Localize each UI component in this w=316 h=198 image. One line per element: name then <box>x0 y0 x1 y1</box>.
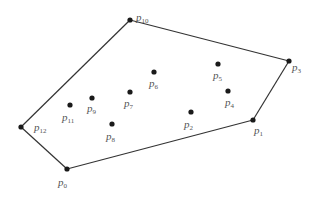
label-p12: p12 <box>33 121 47 135</box>
label-p9: p9 <box>86 102 97 116</box>
point-p3 <box>286 58 291 63</box>
hull-edge-p3-p10 <box>130 20 289 61</box>
point-labels: p0p1p2p3p4p5p6p7p8p9p10p11p12 <box>33 11 302 190</box>
hull-edge-p0-p1 <box>67 120 253 169</box>
point-p0 <box>64 166 69 171</box>
label-p4: p4 <box>224 96 235 110</box>
point-p7 <box>127 89 132 94</box>
label-p2: p2 <box>183 118 194 132</box>
point-p5 <box>215 61 220 66</box>
label-p5: p5 <box>212 69 223 83</box>
point-p6 <box>151 69 156 74</box>
point-p9 <box>89 95 94 100</box>
label-p8: p8 <box>105 130 116 144</box>
label-p3: p3 <box>291 61 302 75</box>
point-p10 <box>127 17 132 22</box>
label-p1: p1 <box>253 124 264 138</box>
label-p6: p6 <box>148 77 159 91</box>
point-p12 <box>18 124 23 129</box>
convex-hull-diagram: p0p1p2p3p4p5p6p7p8p9p10p11p12 <box>0 0 316 198</box>
point-set <box>18 17 291 171</box>
point-p8 <box>109 121 114 126</box>
point-p1 <box>250 117 255 122</box>
point-p4 <box>225 88 230 93</box>
hull-edge-p10-p12 <box>21 20 130 127</box>
label-p0: p0 <box>57 176 68 190</box>
label-p7: p7 <box>123 97 134 111</box>
label-p10: p10 <box>135 11 149 25</box>
point-p2 <box>188 109 193 114</box>
hull-edge-p1-p3 <box>253 61 289 120</box>
label-p11: p11 <box>61 111 75 125</box>
point-p11 <box>67 102 72 107</box>
hull-edges <box>21 20 289 169</box>
